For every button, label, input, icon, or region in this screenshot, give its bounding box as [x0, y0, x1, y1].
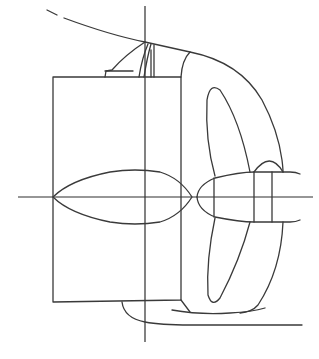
rudder-horn-strut	[105, 42, 190, 77]
figure-caption	[40, 350, 280, 359]
technical-drawing	[0, 0, 319, 359]
hull-stern-curve	[47, 10, 283, 172]
propeller-blade-lower	[172, 218, 283, 314]
rudder-rectangle	[53, 77, 181, 302]
propeller-blade-upper	[207, 88, 283, 176]
